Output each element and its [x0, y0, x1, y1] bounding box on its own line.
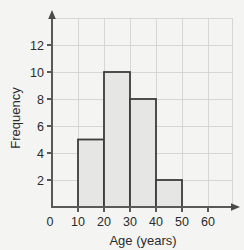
bar-30-40 — [130, 99, 156, 207]
x-tick-label: 0 — [47, 215, 54, 229]
y-tick-label: 12 — [30, 39, 44, 53]
histogram-chart: 2 4 6 8 10 12 0 10 20 30 40 50 60 Age (y… — [0, 0, 244, 250]
bar-10-20 — [78, 140, 104, 208]
x-axis-title: Age (years) — [109, 233, 176, 248]
y-axis-title: Frequency — [8, 87, 23, 149]
y-tick-label: 8 — [37, 93, 44, 107]
bar-20-30 — [104, 72, 130, 207]
x-tick-label: 50 — [175, 215, 189, 229]
y-tick-label: 2 — [37, 174, 44, 188]
x-tick-label: 60 — [201, 215, 215, 229]
x-tick-label: 30 — [123, 215, 137, 229]
x-tick-label: 20 — [97, 215, 111, 229]
x-tick-label: 40 — [149, 215, 163, 229]
y-tick-label: 10 — [30, 66, 44, 80]
bar-40-50 — [156, 180, 182, 207]
y-tick-label: 4 — [37, 147, 44, 161]
chart-canvas: 2 4 6 8 10 12 0 10 20 30 40 50 60 Age (y… — [0, 0, 244, 250]
x-tick-label: 10 — [71, 215, 85, 229]
y-tick-label: 6 — [37, 120, 44, 134]
